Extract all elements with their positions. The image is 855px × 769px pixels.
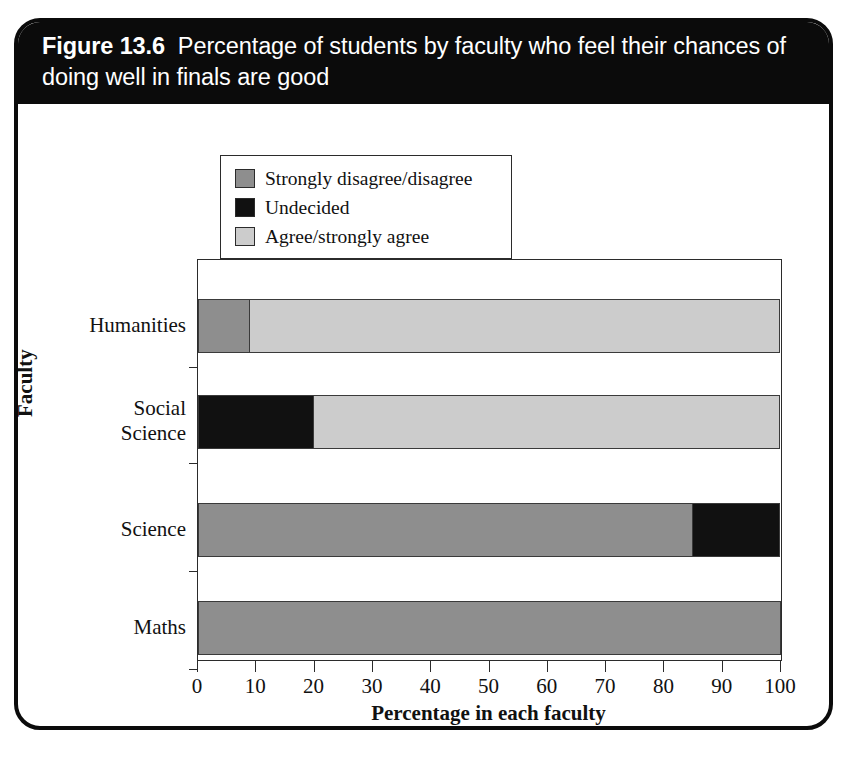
legend-item-undecided: Undecided bbox=[235, 193, 511, 222]
figure-number: Figure 13.6 bbox=[42, 33, 165, 59]
x-axis-tick bbox=[255, 661, 256, 672]
legend-label-strongly-disagree: Strongly disagree/disagree bbox=[265, 169, 472, 189]
x-axis-tick-label: 90 bbox=[711, 674, 732, 699]
chart-legend: Strongly disagree/disagree Undecided Agr… bbox=[220, 155, 512, 259]
x-axis-tick bbox=[547, 661, 548, 672]
legend-item-strongly-disagree: Strongly disagree/disagree bbox=[235, 164, 511, 193]
y-axis-tick bbox=[189, 367, 198, 368]
legend-swatch-agree bbox=[235, 227, 255, 246]
bar-segment bbox=[249, 299, 780, 353]
legend-label-undecided: Undecided bbox=[265, 198, 349, 218]
x-axis-tick-label: 30 bbox=[361, 674, 382, 699]
x-axis-tick-label: 10 bbox=[245, 674, 266, 699]
y-axis-label: Social Science bbox=[121, 396, 186, 446]
y-axis-label: Maths bbox=[134, 615, 187, 640]
x-axis-tick bbox=[314, 661, 315, 672]
x-axis-tick bbox=[663, 661, 664, 672]
figure-caption-text: Figure 13.6 Percentage of students by fa… bbox=[42, 31, 805, 93]
caption-spacer bbox=[165, 33, 178, 59]
x-axis-tick-label: 80 bbox=[653, 674, 674, 699]
x-axis-tick bbox=[780, 661, 781, 672]
bar-row bbox=[198, 395, 781, 449]
y-axis-label: Science bbox=[121, 517, 186, 542]
y-axis-labels: HumanitiesSocial ScienceScienceMaths bbox=[18, 259, 186, 659]
x-axis-tick-label: 20 bbox=[303, 674, 324, 699]
x-axis-tick bbox=[372, 661, 373, 672]
legend-swatch-undecided bbox=[235, 198, 255, 217]
legend-swatch-strongly-disagree bbox=[235, 169, 255, 188]
bar-segment bbox=[198, 395, 315, 449]
figure-card: Figure 13.6 Percentage of students by fa… bbox=[14, 18, 833, 730]
x-axis-tick-label: 100 bbox=[764, 674, 796, 699]
x-axis-tick bbox=[489, 661, 490, 672]
bar-segment bbox=[313, 395, 779, 449]
bar-row bbox=[198, 601, 781, 655]
bar-row bbox=[198, 299, 781, 353]
x-axis-tick bbox=[722, 661, 723, 672]
x-axis-tick-label: 50 bbox=[478, 674, 499, 699]
x-axis-tick-label: 0 bbox=[192, 674, 203, 699]
x-axis-tick-label: 60 bbox=[536, 674, 557, 699]
x-axis-tick bbox=[197, 661, 198, 672]
x-axis-title: Percentage in each faculty bbox=[197, 701, 780, 726]
bar-segment bbox=[198, 299, 250, 353]
bar-row bbox=[198, 503, 781, 557]
bar-segment bbox=[692, 503, 779, 557]
legend-item-agree: Agree/strongly agree bbox=[235, 222, 511, 251]
x-axis-tick bbox=[605, 661, 606, 672]
bar-segment bbox=[198, 503, 694, 557]
y-axis-label: Humanities bbox=[89, 313, 186, 338]
bar-segment bbox=[198, 601, 781, 655]
legend-label-agree: Agree/strongly agree bbox=[265, 227, 429, 247]
x-axis-tick-label: 40 bbox=[420, 674, 441, 699]
y-axis-tick bbox=[189, 571, 198, 572]
plot-area bbox=[197, 259, 782, 661]
y-axis-tick bbox=[189, 463, 198, 464]
x-axis-tick bbox=[430, 661, 431, 672]
x-axis-tick-label: 70 bbox=[595, 674, 616, 699]
figure-caption-bar: Figure 13.6 Percentage of students by fa… bbox=[16, 20, 831, 104]
